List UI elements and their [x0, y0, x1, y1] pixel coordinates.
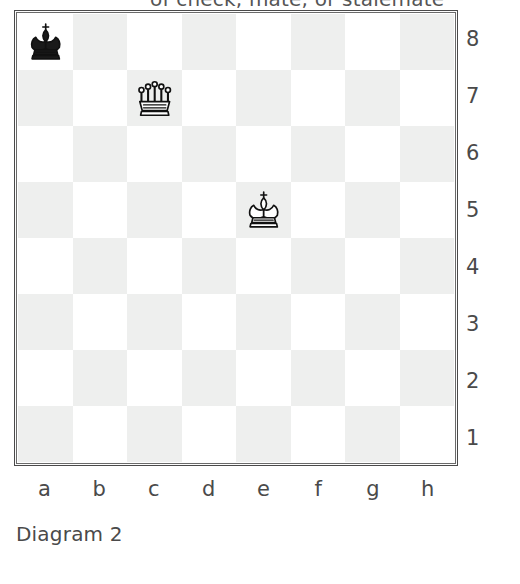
board-square-f3[interactable]: [291, 294, 346, 350]
board-square-f5[interactable]: [291, 182, 346, 238]
board-square-d2[interactable]: [182, 350, 237, 406]
board-square-b3[interactable]: [73, 294, 128, 350]
file-label-f: f: [291, 472, 346, 506]
white-queen-icon[interactable]: [127, 70, 182, 126]
board-square-c1[interactable]: [127, 406, 182, 462]
board-square-b7[interactable]: [73, 70, 128, 126]
board-square-h4[interactable]: [400, 238, 455, 294]
board-square-c4[interactable]: [127, 238, 182, 294]
black-king-icon[interactable]: [18, 14, 73, 70]
board-square-d3[interactable]: [182, 294, 237, 350]
board-square-e3[interactable]: [236, 294, 291, 350]
board-square-g8[interactable]: [345, 14, 400, 70]
board-square-b5[interactable]: [73, 182, 128, 238]
board-square-b4[interactable]: [73, 238, 128, 294]
rank-label-3: 3: [466, 295, 506, 352]
board-square-d1[interactable]: [182, 406, 237, 462]
board-square-a1[interactable]: [18, 406, 73, 462]
board-square-d4[interactable]: [182, 238, 237, 294]
board-square-g7[interactable]: [345, 70, 400, 126]
board-square-h7[interactable]: [400, 70, 455, 126]
board-square-h1[interactable]: [400, 406, 455, 462]
file-label-d: d: [181, 472, 236, 506]
board-square-h6[interactable]: [400, 126, 455, 182]
board-square-f2[interactable]: [291, 350, 346, 406]
board-square-c2[interactable]: [127, 350, 182, 406]
board-square-a7[interactable]: [18, 70, 73, 126]
board-square-e7[interactable]: [236, 70, 291, 126]
rank-label-4: 4: [466, 238, 506, 295]
rank-label-6: 6: [466, 124, 506, 181]
file-label-g: g: [346, 472, 401, 506]
board-square-e5[interactable]: [236, 182, 291, 238]
board-square-c6[interactable]: [127, 126, 182, 182]
board-square-c7[interactable]: [127, 70, 182, 126]
rank-label-7: 7: [466, 67, 506, 124]
board-square-f6[interactable]: [291, 126, 346, 182]
board-square-a8[interactable]: [18, 14, 73, 70]
rank-label-8: 8: [466, 10, 506, 67]
board-outer-border: [14, 10, 458, 466]
diagram-caption: Diagram 2: [16, 522, 123, 546]
board-square-f1[interactable]: [291, 406, 346, 462]
board-square-e6[interactable]: [236, 126, 291, 182]
board-square-f8[interactable]: [291, 14, 346, 70]
file-label-h: h: [400, 472, 455, 506]
board-square-g2[interactable]: [345, 350, 400, 406]
rank-label-column: 87654321: [466, 10, 506, 466]
white-king-icon[interactable]: [236, 182, 291, 238]
board-square-h3[interactable]: [400, 294, 455, 350]
file-label-b: b: [72, 472, 127, 506]
board-square-h8[interactable]: [400, 14, 455, 70]
file-label-row: abcdefgh: [17, 472, 455, 506]
board-square-b8[interactable]: [73, 14, 128, 70]
file-label-a: a: [17, 472, 72, 506]
board-inner-border: [16, 12, 456, 464]
board-square-b2[interactable]: [73, 350, 128, 406]
board-square-f7[interactable]: [291, 70, 346, 126]
board-square-g4[interactable]: [345, 238, 400, 294]
board-square-d5[interactable]: [182, 182, 237, 238]
board-square-g6[interactable]: [345, 126, 400, 182]
board-square-a3[interactable]: [18, 294, 73, 350]
chess-board-grid: [18, 14, 454, 462]
board-square-a2[interactable]: [18, 350, 73, 406]
board-square-e2[interactable]: [236, 350, 291, 406]
board-square-c3[interactable]: [127, 294, 182, 350]
board-square-h5[interactable]: [400, 182, 455, 238]
rank-label-1: 1: [466, 409, 506, 466]
board-square-e1[interactable]: [236, 406, 291, 462]
board-square-g3[interactable]: [345, 294, 400, 350]
board-square-d7[interactable]: [182, 70, 237, 126]
file-label-c: c: [127, 472, 182, 506]
board-square-h2[interactable]: [400, 350, 455, 406]
board-square-e8[interactable]: [236, 14, 291, 70]
board-square-e4[interactable]: [236, 238, 291, 294]
board-square-f4[interactable]: [291, 238, 346, 294]
file-label-e: e: [236, 472, 291, 506]
chess-diagram: [14, 10, 458, 466]
board-square-b1[interactable]: [73, 406, 128, 462]
board-square-g1[interactable]: [345, 406, 400, 462]
board-square-d8[interactable]: [182, 14, 237, 70]
rank-label-2: 2: [466, 352, 506, 409]
board-square-a4[interactable]: [18, 238, 73, 294]
board-square-a5[interactable]: [18, 182, 73, 238]
board-square-g5[interactable]: [345, 182, 400, 238]
board-square-a6[interactable]: [18, 126, 73, 182]
rank-label-5: 5: [466, 181, 506, 238]
board-square-b6[interactable]: [73, 126, 128, 182]
board-square-c8[interactable]: [127, 14, 182, 70]
board-square-d6[interactable]: [182, 126, 237, 182]
board-square-c5[interactable]: [127, 182, 182, 238]
